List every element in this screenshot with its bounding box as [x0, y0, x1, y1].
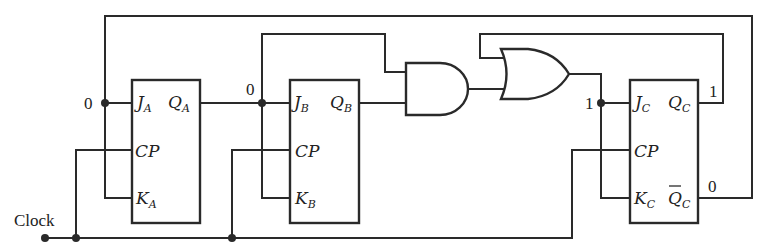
junction-dot [72, 234, 80, 242]
junction-dot [258, 99, 266, 107]
state-label-b: 0 [246, 80, 255, 99]
or-gate [501, 49, 569, 99]
pin-cpa-label: CP [135, 141, 160, 161]
and-gate [406, 63, 468, 115]
or-to-ffc-wire [569, 74, 630, 198]
pin-cpc-label: CP [634, 141, 659, 161]
junction-dot [101, 99, 109, 107]
state-label-qc: 1 [709, 82, 718, 101]
state-label-qbarc: 0 [708, 177, 717, 196]
circuit-diagram: JA QA CP KA JB QB CP KB JC QC CP KC QC 0… [0, 0, 761, 248]
clock-terminal-dot [41, 234, 49, 242]
junction-dot [597, 99, 605, 107]
state-label-c: 1 [585, 94, 594, 113]
pin-cpb-label: CP [295, 141, 320, 161]
clock-label: Clock [14, 211, 55, 230]
state-label-a: 0 [84, 94, 93, 113]
junction-dot [228, 234, 236, 242]
